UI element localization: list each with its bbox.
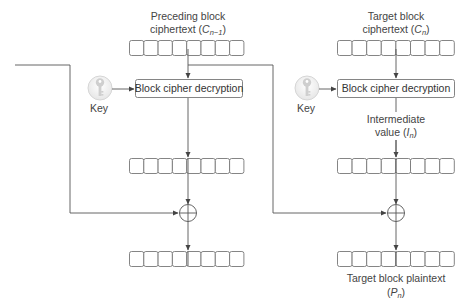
key-label-right: Key (297, 102, 316, 114)
xor-operator-right (388, 205, 405, 222)
key-icon-left (88, 76, 112, 100)
target-plaintext-label-line1: Target block plaintext (347, 272, 446, 284)
target-block-label-line2: ciphertext (Cn) (362, 23, 429, 37)
intermediate-label-line1: Intermediate (367, 113, 426, 125)
key-label-left: Key (90, 102, 109, 114)
decryption-label-right: Block cipher decryption (342, 82, 451, 94)
right-column: Target block ciphertext (Cn) Block ciphe… (295, 10, 455, 300)
target-block-label-line1: Target block (368, 10, 425, 22)
preceding-block-label-line1: Preceding block (151, 10, 226, 22)
intermediate-block-left (130, 159, 244, 174)
xor-operator-left (180, 205, 197, 222)
block-cipher-decryption-left: Block cipher decryption (135, 80, 244, 98)
block-cipher-decryption-right: Block cipher decryption (338, 80, 455, 98)
decryption-label-left: Block cipher decryption (135, 82, 244, 94)
left-column: Preceding block ciphertext (Cn−1) Block … (15, 10, 244, 267)
key-icon-right (295, 76, 319, 100)
plaintext-block-left (130, 252, 244, 267)
preceding-block-label-line2: ciphertext (Cn−1) (150, 23, 226, 37)
target-plaintext-label-line2: (Pn) (387, 286, 405, 300)
preceding-ciphertext-block (130, 41, 244, 56)
cbc-decryption-diagram: Preceding block ciphertext (Cn−1) Block … (0, 0, 470, 308)
